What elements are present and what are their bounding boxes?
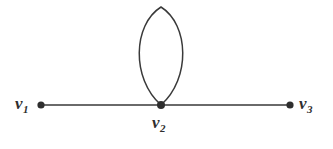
vertex-v3	[286, 101, 293, 108]
vertex-label-v3: v3	[299, 95, 313, 115]
vertex-v2	[157, 101, 165, 109]
vertex-label-v3-letter: v	[299, 94, 307, 113]
graph-figure: v1 v2 v3	[0, 0, 333, 149]
vertex-label-v1-letter: v	[15, 94, 23, 113]
graph-canvas	[0, 0, 333, 149]
vertex-label-v3-subscript: 3	[307, 103, 313, 115]
edge-self-loop-v2	[139, 7, 182, 105]
vertex-label-v2-letter: v	[152, 113, 160, 132]
vertex-label-v1-subscript: 1	[23, 103, 29, 115]
vertex-label-v2: v2	[152, 114, 166, 134]
vertex-label-v1: v1	[15, 95, 29, 115]
vertex-v1	[37, 101, 44, 108]
vertex-label-v2-subscript: 2	[160, 122, 166, 134]
